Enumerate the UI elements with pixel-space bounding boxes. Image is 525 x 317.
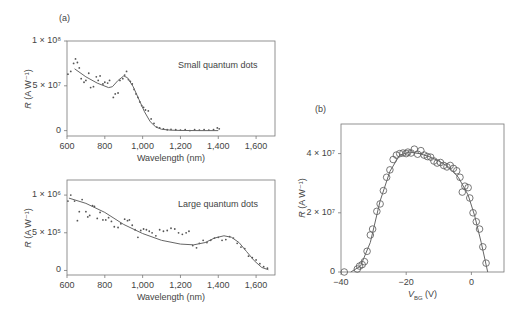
- x-tick-label: 1,200: [169, 280, 192, 290]
- x-axis-label: Wavelength (nm): [137, 153, 205, 163]
- x-tick-label: 1,000: [131, 280, 154, 290]
- y-tick-label: 0: [56, 125, 61, 135]
- x-tick-label: −40: [333, 277, 348, 287]
- x-tick-label: 800: [97, 141, 112, 151]
- x-tick-label: 0: [469, 277, 474, 287]
- x-tick-label: 600: [59, 141, 74, 151]
- y-tick-label: 1 × 10⁸: [32, 35, 61, 45]
- y-tick-label: 0: [330, 266, 335, 276]
- y-axis-label: R (A W⁻¹): [23, 208, 33, 248]
- x-tick-label: 800: [97, 280, 112, 290]
- y-axis-label: R (A W⁻¹): [297, 178, 307, 218]
- x-axis-label: Wavelength (nm): [137, 292, 205, 302]
- y-tick-label: 5 × 10⁵: [32, 227, 61, 237]
- y-tick-label: 0: [56, 264, 61, 274]
- x-tick-label: 1,600: [245, 141, 268, 151]
- y-axis-label: R (A W⁻¹): [23, 69, 33, 109]
- x-tick-label: 1,600: [245, 280, 268, 290]
- x-tick-label: 600: [59, 280, 74, 290]
- x-tick-label: 1,400: [207, 280, 230, 290]
- annotation: Large quantum dots: [178, 199, 258, 209]
- x-tick-label: 1,200: [169, 141, 192, 151]
- annotation: Small quantum dots: [178, 60, 258, 70]
- x-tick-label: 1,400: [207, 141, 230, 151]
- y-tick-label: 1 × 10⁶: [32, 189, 61, 199]
- y-tick-label: 4 × 10⁷: [306, 148, 335, 158]
- x-tick-label: 1,000: [131, 141, 154, 151]
- x-axis-label: VBG (V): [408, 289, 437, 301]
- x-tick-label: −20: [399, 277, 414, 287]
- y-tick-label: 5 × 10⁷: [32, 80, 61, 90]
- y-tick-label: 2 × 10⁷: [306, 207, 335, 217]
- chart-canvas: [0, 0, 525, 317]
